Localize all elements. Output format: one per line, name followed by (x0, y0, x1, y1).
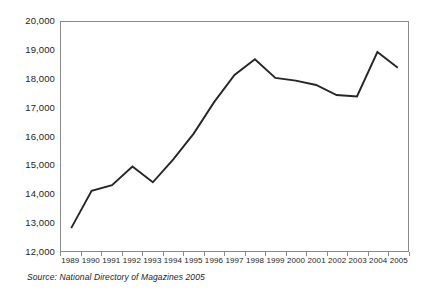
y-tick-label: 17,000 (0, 103, 55, 113)
x-tick-label: 1993 (143, 256, 161, 265)
x-tick-label: 1995 (184, 256, 202, 265)
y-tick-label: 15,000 (0, 160, 55, 170)
x-tick-label: 1998 (246, 256, 264, 265)
line-series-svg (61, 22, 408, 251)
x-axis: 1989199019911992199319941995199619971998… (60, 256, 409, 270)
x-tick-label: 1992 (123, 256, 141, 265)
x-tick-label: 1991 (102, 256, 120, 265)
x-tick-label: 1997 (225, 256, 243, 265)
y-tick-label: 16,000 (0, 132, 55, 142)
y-tick-label: 13,000 (0, 218, 55, 228)
y-tick-label: 20,000 (0, 16, 55, 26)
x-tick-label: 1994 (164, 256, 182, 265)
x-tick-label: 2005 (390, 256, 408, 265)
x-tick-mark (409, 252, 410, 256)
chart-figure: 20,00019,00018,00017,00016,00015,00014,0… (0, 0, 431, 290)
x-tick-label: 2000 (287, 256, 305, 265)
y-tick-label: 19,000 (0, 45, 55, 55)
x-tick-label: 2004 (369, 256, 387, 265)
source-note: Source: National Directory of Magazines … (27, 272, 205, 282)
y-tick-label: 14,000 (0, 189, 55, 199)
y-axis: 20,00019,00018,00017,00016,00015,00014,0… (0, 21, 55, 252)
data-series-line (71, 52, 398, 228)
plot-area (60, 21, 409, 252)
x-tick-label: 2001 (308, 256, 326, 265)
y-tick-label: 18,000 (0, 74, 55, 84)
x-tick-label: 1996 (205, 256, 223, 265)
x-tick-label: 2003 (349, 256, 367, 265)
x-tick-label: 1989 (61, 256, 79, 265)
x-tick-label: 1990 (82, 256, 100, 265)
x-tick-label: 1999 (266, 256, 284, 265)
x-tick-label: 2002 (328, 256, 346, 265)
y-tick-label: 12,000 (0, 247, 55, 257)
